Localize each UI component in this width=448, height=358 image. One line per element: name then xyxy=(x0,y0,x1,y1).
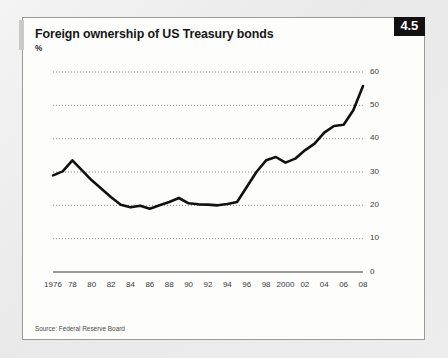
card-accent-bar xyxy=(19,20,24,50)
line-chart-svg xyxy=(29,54,391,310)
page-title: Foreign ownership of US Treasury bonds xyxy=(35,27,274,41)
source-note: Source: Federal Reserve Board xyxy=(35,325,125,332)
gridlines-group xyxy=(53,72,363,239)
figure-number-badge: 4.5 xyxy=(394,17,425,36)
data-series-line xyxy=(53,86,363,209)
chart-card: Foreign ownership of US Treasury bonds %… xyxy=(22,17,425,340)
chart-unit-label: % xyxy=(35,44,42,53)
chart-plot-area: 0102030405060 19767880828486889092949698… xyxy=(29,54,391,310)
